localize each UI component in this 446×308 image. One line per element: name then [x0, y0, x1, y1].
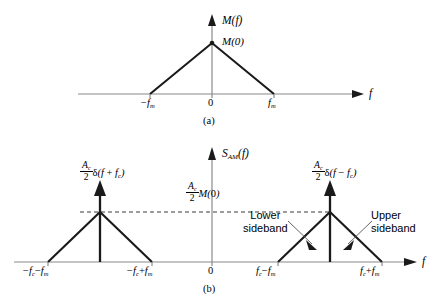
lower-sideband-leader-arrowhead — [306, 240, 317, 250]
panel-a-tick-label-neg-fm: −fm — [140, 98, 155, 109]
panel-a-graphics — [78, 14, 364, 98]
panel-a-y-arrowhead — [208, 14, 216, 26]
upper-sideband-leader-arrowhead — [343, 240, 354, 250]
panel-a-tick-label-zero: 0 — [208, 98, 213, 109]
panel-b-caption: (b) — [203, 284, 215, 295]
panel-a-xaxis-label: f — [369, 88, 372, 100]
panel-b-xaxis-label: f — [422, 256, 425, 268]
panel-a-x-arrowhead — [352, 90, 364, 98]
panel-b-graphics — [14, 147, 417, 266]
figure-am-spectrum: M(f) M(0) f −fm 0 fm (a) SAM(f) Ac 2 δ(f… — [0, 0, 446, 308]
panel-a-peak-marker — [210, 41, 215, 46]
panel-b-x-arrowhead — [404, 258, 417, 266]
panel-a-peak-label: M(0) — [222, 36, 244, 47]
panel-b-tick-label-fc-minus-fm: fc−fm — [256, 266, 275, 277]
panel-b-tick-label-zero: 0 — [208, 266, 213, 277]
panel-b-y-arrowhead — [208, 147, 216, 160]
panel-b-tick-label-neg-fc-minus-fm: −fc−fm — [22, 266, 48, 277]
panel-a-tick-label-fm: fm — [268, 98, 276, 109]
panel-b-impulse-right-label: Ac 2 δ(f − fc) — [312, 160, 356, 183]
panel-a-caption: (a) — [203, 116, 215, 127]
panel-b-impulse-left-label: Ac 2 δ(f + fc) — [80, 160, 124, 183]
panel-b-dashed-level-label: Ac 2 M(0) — [186, 181, 220, 204]
panel-b-yaxis-label: SAM(f) — [222, 148, 249, 161]
lower-sideband-annotation: Lower sideband — [243, 209, 288, 234]
panel-b-tick-label-neg-fc-plus-fm: −fc+fm — [126, 266, 152, 277]
upper-sideband-annotation: Upper sideband — [371, 209, 416, 234]
panel-b-tick-label-fc-plus-fm: fc+fm — [360, 266, 379, 277]
panel-a-yaxis-label: M(f) — [222, 15, 242, 27]
